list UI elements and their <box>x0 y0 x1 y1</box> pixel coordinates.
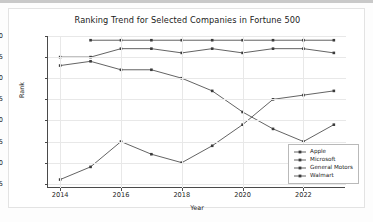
data-point-marker <box>89 39 92 42</box>
legend-item-apple[interactable]: Apple <box>293 148 353 156</box>
data-point-marker <box>272 128 275 131</box>
x-tick-label: 2018 <box>173 191 190 199</box>
data-point-marker <box>272 39 275 42</box>
y-tick-label: 5 <box>0 53 3 61</box>
data-point-marker <box>150 39 153 42</box>
data-point-marker <box>89 60 92 63</box>
gridline-horizontal <box>48 57 346 58</box>
y-tick-label: 20 <box>0 116 3 124</box>
data-point-marker <box>333 39 336 42</box>
y-axis-label: Rank <box>18 82 26 98</box>
legend-line-marker-icon <box>293 156 307 164</box>
gridline-horizontal <box>48 99 346 100</box>
legend-line-marker-icon <box>293 164 307 172</box>
y-tick-mark <box>45 78 48 79</box>
y-tick-mark <box>45 142 48 143</box>
legend-line-marker-icon <box>293 148 307 156</box>
data-point-marker <box>211 39 214 42</box>
y-tick-mark <box>45 57 48 58</box>
x-tick-label: 2020 <box>234 191 251 199</box>
gridline-vertical <box>121 36 122 188</box>
data-point-marker <box>333 52 336 55</box>
data-point-marker <box>150 153 153 156</box>
gridline-horizontal <box>48 142 346 143</box>
y-tick-label: 0 <box>0 32 3 40</box>
data-point-marker <box>272 47 275 50</box>
data-point-marker <box>89 166 92 169</box>
gridline-horizontal <box>48 120 346 121</box>
x-tick-label: 2022 <box>295 191 312 199</box>
legend-label: Microsoft <box>310 157 335 163</box>
series-walmart <box>89 39 335 42</box>
chart-legend[interactable]: AppleMicrosoftGeneral MotorsWalmart <box>288 144 359 184</box>
data-point-marker <box>150 68 153 71</box>
y-tick-mark <box>45 163 48 164</box>
legend-item-microsoft[interactable]: Microsoft <box>293 156 353 164</box>
series-line <box>60 49 334 57</box>
gridline-vertical <box>182 36 183 188</box>
y-tick-mark <box>45 184 48 185</box>
gridline-horizontal <box>48 78 346 79</box>
chart-title: Ranking Trend for Selected Companies in … <box>9 15 366 25</box>
top-divider <box>0 0 373 3</box>
gridline-vertical <box>60 36 61 188</box>
y-tick-label: 30 <box>0 159 3 167</box>
y-tick-label: 15 <box>0 95 3 103</box>
x-tick-label: 2016 <box>113 191 130 199</box>
data-point-marker <box>333 123 336 126</box>
y-tick-mark <box>45 120 48 121</box>
legend-item-general-motors[interactable]: General Motors <box>293 164 353 172</box>
legend-label: General Motors <box>310 165 353 171</box>
data-point-marker <box>211 144 214 147</box>
data-point-marker <box>333 90 336 93</box>
legend-item-walmart[interactable]: Walmart <box>293 172 353 180</box>
gridline-vertical <box>243 36 244 188</box>
y-tick-mark <box>45 36 48 37</box>
y-tick-mark <box>45 99 48 100</box>
x-axis-label: Year <box>48 204 346 212</box>
screenshot-root: Ranking Trend for Selected Companies in … <box>0 0 373 222</box>
series-apple <box>59 60 335 143</box>
data-point-marker <box>211 47 214 50</box>
y-tick-label: 35 <box>0 180 3 188</box>
y-tick-label: 25 <box>0 138 3 146</box>
data-point-marker <box>211 90 214 93</box>
gridline-horizontal <box>48 36 346 37</box>
data-point-marker <box>150 47 153 50</box>
series-line <box>60 61 334 141</box>
legend-line-marker-icon <box>293 172 307 180</box>
legend-label: Walmart <box>310 173 334 179</box>
y-tick-label: 10 <box>0 74 3 82</box>
chart-figure: Ranking Trend for Selected Companies in … <box>8 8 365 208</box>
x-tick-label: 2014 <box>52 191 69 199</box>
legend-label: Apple <box>310 149 326 155</box>
